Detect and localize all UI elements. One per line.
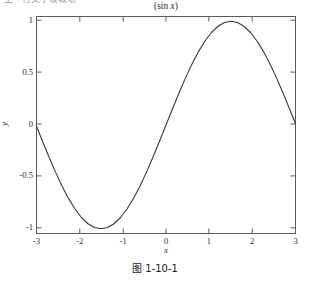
y-axis-label: y	[0, 122, 9, 126]
y-tick-label: -0.5	[3, 171, 33, 180]
x-tick-label: 2	[240, 236, 264, 246]
x-axis-label: x	[154, 245, 178, 255]
plot-title: (sin x)	[36, 1, 296, 12]
plot-canvas	[36, 16, 296, 234]
y-tick-label: 1	[3, 16, 33, 25]
figure-sin-plot: (sin x)	[0, 0, 310, 282]
x-tick-label: 1	[197, 236, 221, 246]
x-tick-label: -2	[68, 236, 92, 246]
y-tick-label: 0.5	[3, 68, 33, 77]
y-tick-label: -1	[3, 223, 33, 232]
x-tick-label: -3	[25, 236, 49, 246]
x-tick-label: -1	[111, 236, 135, 246]
x-tick-label: 3	[284, 236, 308, 246]
figure-caption: 图 1-10-1	[0, 262, 310, 275]
plot-title-suffix: )	[175, 1, 178, 11]
plot-axes	[36, 16, 296, 234]
plot-title-prefix: (sin	[154, 1, 171, 11]
